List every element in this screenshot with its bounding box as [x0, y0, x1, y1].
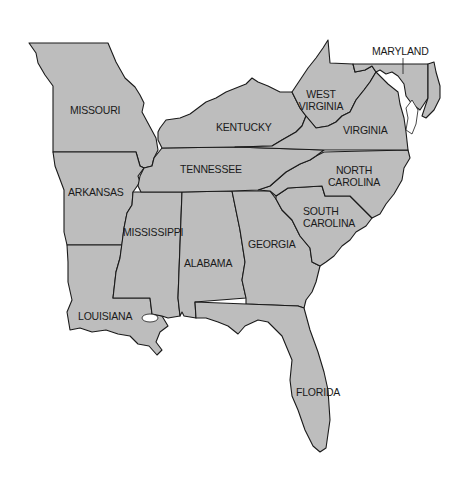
label-south-carolina-line1: SOUTH [303, 205, 355, 217]
label-north-carolina-line1: NORTH [326, 164, 382, 176]
label-arkansas: ARKANSAS [68, 186, 124, 198]
label-florida: FLORIDA [296, 386, 340, 398]
map-svg [0, 0, 467, 490]
label-west-virginia: WEST VIRGINIA [296, 88, 346, 112]
label-south-carolina-line2: CAROLINA [303, 217, 355, 229]
label-georgia: GEORGIA [248, 238, 296, 250]
label-mississippi: MISSISSIPPI [123, 226, 183, 238]
label-virginia: VIRGINIA [343, 124, 388, 136]
state-kentucky[interactable] [158, 78, 306, 148]
label-west-virginia-line2: VIRGINIA [296, 100, 346, 112]
label-maryland: MARYLAND [372, 45, 429, 57]
state-florida[interactable] [195, 302, 330, 452]
label-north-carolina-line2: CAROLINA [326, 176, 382, 188]
label-south-carolina: SOUTH CAROLINA [303, 205, 355, 229]
southeast-us-map: MISSOURI KENTUCKY WEST VIRGINIA MARYLAND… [0, 0, 467, 490]
label-north-carolina: NORTH CAROLINA [326, 164, 382, 188]
label-tennessee: TENNESSEE [180, 163, 242, 175]
label-kentucky: KENTUCKY [216, 121, 272, 133]
label-alabama: ALABAMA [184, 257, 232, 269]
label-missouri: MISSOURI [70, 104, 120, 116]
lake-pontchartrain [142, 314, 158, 322]
label-west-virginia-line1: WEST [296, 88, 346, 100]
label-louisiana: LOUISIANA [78, 310, 132, 322]
